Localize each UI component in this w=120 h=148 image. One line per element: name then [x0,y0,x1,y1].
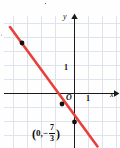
annotation-x-value: 0, [36,129,43,138]
scan-speck [45,3,46,4]
fraction-seven-thirds: 7 3 [49,124,55,143]
data-point [60,102,65,107]
close-paren: ) [56,128,60,140]
annotation-minus-sign: − [43,129,48,138]
data-point-y-intercept [72,120,77,125]
y-intercept-annotation: ( 0, − 7 3 ) [32,124,60,143]
y-axis-label: y [63,13,67,21]
origin-label: O [66,94,72,102]
y-axis-arrow [71,14,77,20]
y-axis-tick-label-1: 1 [64,64,68,72]
coordinate-plane-figure: y x O 1 1 ( 0, − 7 3 ) [0,0,120,148]
graph-canvas [0,0,120,148]
x-axis-tick-label-1: 1 [86,95,90,103]
grid-lines [4,16,120,148]
x-axis-label: x [110,91,114,99]
fraction-denominator: 3 [49,135,55,143]
data-point [20,41,25,46]
scan-speck-edge [1,34,2,36]
fraction-numerator: 7 [49,124,55,132]
